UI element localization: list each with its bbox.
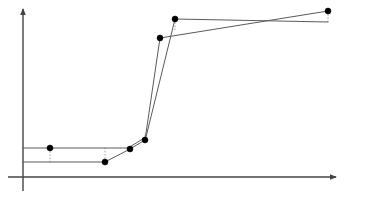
data-point-marker [47, 145, 53, 151]
axes-layer [8, 8, 337, 191]
series-layer [23, 11, 328, 162]
series-line-curve-lower-start [23, 11, 328, 162]
plot-canvas [0, 0, 375, 198]
data-point-marker [157, 35, 163, 41]
series-line-curve-upper-start [23, 19, 328, 148]
data-point-marker [325, 8, 331, 14]
data-point-marker [127, 146, 133, 152]
markers-layer [47, 8, 331, 165]
data-point-marker [172, 16, 178, 22]
data-point-marker [142, 137, 148, 143]
x-axis-arrow-icon [330, 174, 337, 180]
y-axis-arrow-icon [20, 8, 26, 15]
figure-root [0, 0, 375, 198]
data-point-marker [102, 159, 108, 165]
